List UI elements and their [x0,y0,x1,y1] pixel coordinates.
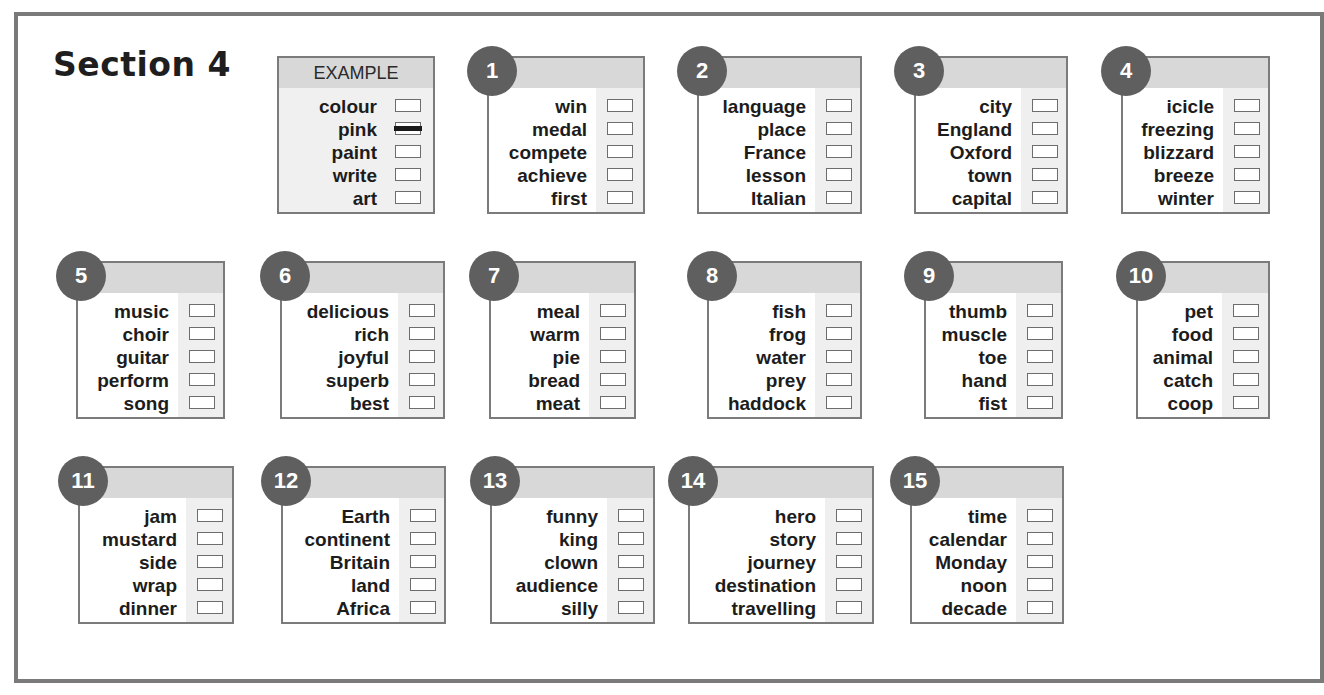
answer-checkbox[interactable] [607,168,633,181]
answer-checkbox[interactable] [1032,191,1058,204]
answer-checkbox[interactable] [1027,350,1053,363]
answer-checkbox[interactable] [1032,99,1058,112]
question-number-badge: 7 [469,251,519,301]
answer-checkbox[interactable] [600,373,626,386]
answer-checkbox[interactable] [1027,304,1053,317]
answer-checkbox[interactable] [409,396,435,409]
answer-checkbox[interactable] [1234,168,1260,181]
answer-checkbox[interactable] [826,327,852,340]
word-row: fish [709,300,860,323]
example-word: paint [332,141,377,164]
example-label: EXAMPLE [279,58,433,88]
example-checkbox[interactable] [395,145,421,158]
answer-checkbox[interactable] [607,191,633,204]
answer-checkbox[interactable] [410,578,436,591]
example-checkbox[interactable] [395,191,421,204]
answer-checkbox[interactable] [1027,601,1053,614]
word-label: blizzard [1143,141,1214,164]
answer-checkbox[interactable] [836,578,862,591]
word-row: continent [283,528,444,551]
answer-checkbox[interactable] [1032,145,1058,158]
question-number-badge: 9 [904,251,954,301]
word-row: prey [709,369,860,392]
answer-checkbox[interactable] [1027,532,1053,545]
word-label: meal [537,300,580,323]
answer-checkbox[interactable] [1234,145,1260,158]
answer-checkbox[interactable] [836,509,862,522]
example-checkbox-marked[interactable] [395,122,421,135]
answer-checkbox[interactable] [826,168,852,181]
answer-checkbox[interactable] [1027,327,1053,340]
answer-checkbox[interactable] [600,327,626,340]
answer-checkbox[interactable] [197,555,223,568]
answer-checkbox[interactable] [1032,122,1058,135]
answer-checkbox[interactable] [600,396,626,409]
answer-checkbox[interactable] [1032,168,1058,181]
answer-checkbox[interactable] [197,509,223,522]
answer-checkbox[interactable] [600,350,626,363]
answer-checkbox[interactable] [826,99,852,112]
answer-checkbox[interactable] [1027,509,1053,522]
answer-checkbox[interactable] [618,578,644,591]
word-row: catch [1138,369,1268,392]
answer-checkbox[interactable] [409,373,435,386]
word-row: medal [489,118,643,141]
answer-checkbox[interactable] [826,122,852,135]
answer-checkbox[interactable] [409,327,435,340]
word-row: perform [78,369,223,392]
answer-checkbox[interactable] [836,555,862,568]
answer-checkbox[interactable] [826,350,852,363]
answer-checkbox[interactable] [1027,396,1053,409]
answer-checkbox[interactable] [1233,373,1259,386]
word-row: king [492,528,653,551]
answer-checkbox[interactable] [189,327,215,340]
answer-checkbox[interactable] [826,304,852,317]
answer-checkbox[interactable] [189,373,215,386]
answer-checkbox[interactable] [607,145,633,158]
answer-checkbox[interactable] [607,99,633,112]
answer-checkbox[interactable] [410,509,436,522]
answer-checkbox[interactable] [1027,578,1053,591]
answer-checkbox[interactable] [618,601,644,614]
answer-checkbox[interactable] [1233,327,1259,340]
answer-checkbox[interactable] [1027,373,1053,386]
answer-checkbox[interactable] [409,350,435,363]
answer-checkbox[interactable] [189,350,215,363]
answer-checkbox[interactable] [1234,122,1260,135]
word-label: breeze [1154,164,1214,187]
answer-checkbox[interactable] [410,601,436,614]
answer-checkbox[interactable] [409,304,435,317]
question-number-badge: 15 [890,456,940,506]
answer-checkbox[interactable] [607,122,633,135]
answer-checkbox[interactable] [618,509,644,522]
example-checkbox[interactable] [395,168,421,181]
answer-checkbox[interactable] [1234,99,1260,112]
answer-checkbox[interactable] [826,145,852,158]
word-label: time [968,505,1007,528]
answer-checkbox[interactable] [1234,191,1260,204]
word-row: silly [492,597,653,620]
answer-checkbox[interactable] [618,555,644,568]
answer-checkbox[interactable] [1233,304,1259,317]
answer-checkbox[interactable] [410,555,436,568]
answer-checkbox[interactable] [1233,350,1259,363]
answer-checkbox[interactable] [1233,396,1259,409]
answer-checkbox[interactable] [826,396,852,409]
answer-checkbox[interactable] [197,601,223,614]
answer-checkbox[interactable] [189,396,215,409]
answer-checkbox[interactable] [189,304,215,317]
answer-checkbox[interactable] [826,373,852,386]
answer-checkbox[interactable] [600,304,626,317]
word-label: perform [97,369,169,392]
answer-checkbox[interactable] [826,191,852,204]
answer-checkbox[interactable] [836,601,862,614]
answer-checkbox[interactable] [197,578,223,591]
answer-checkbox[interactable] [836,532,862,545]
example-checkbox[interactable] [395,99,421,112]
answer-checkbox[interactable] [197,532,223,545]
answer-checkbox[interactable] [410,532,436,545]
word-label: medal [532,118,587,141]
answer-checkbox[interactable] [1027,555,1053,568]
answer-checkbox[interactable] [618,532,644,545]
word-label: pet [1185,300,1214,323]
